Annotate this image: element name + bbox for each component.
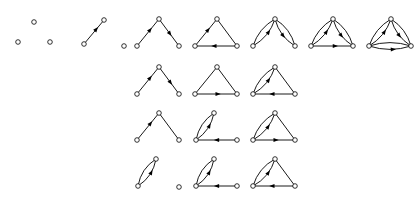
graph-figure-canvas (0, 0, 414, 198)
graph-edge (369, 46, 411, 49)
graph-vertex (273, 65, 278, 70)
graph-drawing (72, 10, 130, 56)
edge-arrowhead (381, 30, 386, 35)
graph-vertex (293, 184, 298, 189)
graph-drawing (130, 10, 188, 56)
edge-arrowhead (167, 79, 172, 84)
graph-drawing (188, 150, 246, 196)
graph-edge (253, 67, 275, 94)
graph-vertex (293, 138, 298, 143)
graph-edge (275, 159, 295, 186)
graph-vertex (157, 65, 162, 70)
graph-drawing (304, 10, 362, 56)
edge-arrowhead (214, 138, 219, 142)
edge-arrowhead (333, 44, 338, 48)
graph-r3c4 (188, 104, 246, 150)
graph-r2c5 (246, 58, 304, 104)
graph-drawing (246, 10, 304, 56)
graph-vertex (351, 44, 356, 49)
graph-vertex (177, 92, 182, 97)
graph-r4c4 (188, 150, 246, 196)
graph-drawing (188, 58, 246, 104)
graph-edge (391, 19, 411, 46)
graph-vertex (136, 184, 141, 189)
graph-vertex (215, 65, 220, 70)
graph-edge (253, 19, 275, 46)
graph-edge (137, 19, 159, 46)
graph-vertex (102, 18, 107, 23)
graph-edge (253, 19, 275, 46)
graph-vertex (235, 44, 240, 49)
graph-edge (253, 113, 275, 140)
edge-arrowhead (338, 32, 343, 37)
graph-edge (196, 113, 214, 140)
graph-vertex (331, 17, 336, 22)
graph-r3c5 (246, 104, 304, 150)
graph-edge (275, 113, 295, 140)
graph-r1c4 (188, 10, 246, 56)
graph-drawing (130, 104, 188, 150)
graph-vertex (157, 111, 162, 116)
graph-drawing (362, 10, 414, 56)
graph-vertex (154, 157, 159, 162)
graph-vertex (309, 44, 314, 49)
graph-edge (253, 159, 275, 186)
graph-edge (196, 159, 214, 186)
graph-edge (275, 67, 295, 94)
graph-vertex (32, 20, 37, 25)
edge-arrowhead (391, 47, 396, 51)
graph-drawing (188, 104, 246, 150)
graph-r4c5 (246, 150, 304, 196)
edge-arrowhead (211, 44, 216, 48)
graph-vertex (293, 44, 298, 49)
graph-edge (137, 113, 159, 140)
graph-r1c5 (246, 10, 304, 56)
graph-drawing (188, 10, 246, 56)
graph-edge (369, 43, 411, 46)
edge-arrowhead (396, 32, 401, 37)
graph-r1c6 (304, 10, 362, 56)
graph-r1c1 (14, 10, 72, 56)
graph-edge (369, 19, 391, 46)
edge-arrowhead (280, 33, 285, 38)
edge-arrowhead (214, 184, 219, 188)
edge-arrowhead (323, 30, 328, 35)
graph-r3c3 (130, 104, 188, 150)
graph-vertex (135, 138, 140, 143)
edge-arrowhead (274, 138, 279, 142)
edge-arrowhead (207, 123, 211, 129)
graph-r2c4 (188, 58, 246, 104)
graph-edge (333, 19, 353, 46)
graph-r4c3 (130, 150, 188, 196)
graph-edge (138, 159, 156, 186)
graph-vertex (273, 17, 278, 22)
graph-vertex (177, 185, 182, 190)
graph-edge (159, 67, 179, 94)
graph-vertex (16, 40, 21, 45)
edge-arrowhead (269, 184, 274, 188)
graph-vertex (193, 92, 198, 97)
graph-drawing (130, 150, 188, 196)
graph-vertex (122, 44, 127, 49)
graph-edge (195, 67, 217, 94)
graph-vertex (235, 138, 240, 143)
edge-arrowhead (266, 30, 271, 35)
graph-vertex (367, 44, 372, 49)
graph-vertex (135, 92, 140, 97)
graph-vertex (235, 184, 240, 189)
graph-r1c3 (130, 10, 188, 56)
graph-vertex (389, 17, 394, 22)
graph-edge (391, 19, 411, 46)
graph-drawing (130, 58, 188, 104)
graph-vertex (194, 184, 199, 189)
graph-vertex (251, 92, 256, 97)
graph-edge (196, 113, 214, 140)
graph-vertex (409, 44, 414, 49)
graph-edge (195, 19, 217, 46)
graph-edge (333, 19, 353, 46)
graph-edge (253, 67, 275, 94)
graph-drawing (246, 104, 304, 150)
graph-edge (253, 113, 275, 140)
graph-edge (84, 20, 104, 44)
graph-edge (217, 67, 237, 94)
